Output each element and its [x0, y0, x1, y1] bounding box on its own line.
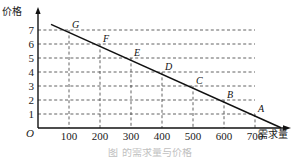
y-tick-5: 5 [21, 52, 34, 64]
point-label-F: F [103, 33, 109, 44]
y-axis [35, 7, 40, 128]
y-tick-6: 6 [21, 38, 34, 50]
y-tick-2: 2 [21, 94, 34, 106]
x-tick-600: 600 [211, 130, 237, 142]
x-tick-700: 700 [242, 130, 268, 142]
x-tick-400: 400 [149, 130, 175, 142]
point-label-E: E [134, 47, 140, 58]
point-label-B: B [227, 89, 233, 100]
point-label-A: A [258, 103, 264, 114]
y-axis-label: 价格 [2, 3, 22, 18]
x-tick-200: 200 [87, 130, 113, 142]
y-tick-3: 3 [21, 80, 34, 92]
demand-curve [51, 24, 281, 127]
figure-container: 价格 需求量 O 7 6 5 4 3 2 1 100 200 300 400 5… [0, 0, 300, 157]
point-label-C: C [196, 75, 203, 86]
y-tick-7: 7 [21, 24, 34, 36]
y-tick-4: 4 [21, 66, 34, 78]
x-tick-500: 500 [180, 130, 206, 142]
figure-caption: 图 的需求量与价格 [0, 148, 300, 157]
x-tick-100: 100 [56, 130, 82, 142]
x-tick-300: 300 [118, 130, 144, 142]
point-label-G: G [72, 19, 79, 30]
origin-label: O [26, 127, 34, 139]
y-tick-1: 1 [21, 108, 34, 120]
point-label-D: D [165, 61, 172, 72]
